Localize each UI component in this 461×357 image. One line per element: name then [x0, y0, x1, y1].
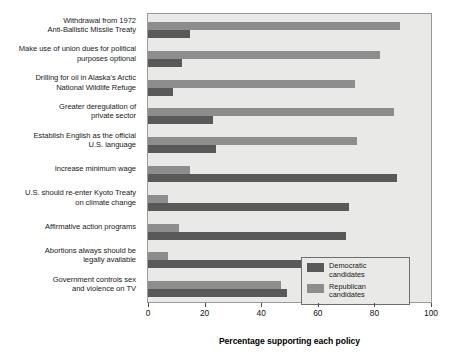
- x-tick-mark: [374, 303, 375, 307]
- bar-group: [148, 72, 431, 101]
- category-label: Abortions always should belegally availa…: [0, 246, 136, 265]
- x-tick-mark: [261, 303, 262, 307]
- x-tick-label: 60: [313, 308, 322, 318]
- category-label: Increase minimum wage: [0, 164, 136, 173]
- category-label: Withdrawal from 1972Anti-Ballistic Missi…: [0, 16, 136, 35]
- bar-democratic: [148, 260, 315, 268]
- x-axis-title: Percentage supporting each policy: [147, 336, 432, 346]
- bar-republican: [148, 22, 400, 30]
- category-label: U.S. should re-enter Kyoto Treatyon clim…: [0, 188, 136, 207]
- bar-group: [148, 216, 431, 245]
- bar-republican: [148, 51, 380, 59]
- bar-republican: [148, 166, 190, 174]
- x-tick-mark: [318, 303, 319, 307]
- bar-democratic: [148, 116, 213, 124]
- x-tick-mark: [205, 303, 206, 307]
- category-label: Government controls sexand violence on T…: [0, 275, 136, 294]
- x-axis: 020406080100: [147, 303, 432, 323]
- bar-group: [148, 129, 431, 158]
- legend-item: Republicancandidates: [307, 283, 404, 301]
- category-label: Make use of union dues for politicalpurp…: [0, 44, 136, 63]
- bar-chart: Withdrawal from 1972Anti-Ballistic Missi…: [0, 0, 461, 357]
- x-tick-label: 40: [257, 308, 266, 318]
- legend-label: Democraticcandidates: [329, 262, 366, 280]
- category-label: Greater deregulation ofprivate sector: [0, 102, 136, 121]
- legend-swatch: [307, 284, 324, 293]
- bar-republican: [148, 195, 168, 203]
- bar-democratic: [148, 30, 190, 38]
- bar-democratic: [148, 88, 173, 96]
- category-axis-labels: Withdrawal from 1972Anti-Ballistic Missi…: [0, 13, 142, 303]
- bar-democratic: [148, 232, 346, 240]
- category-label: Affirmative action programs: [0, 222, 136, 231]
- bar-democratic: [148, 203, 349, 211]
- legend-label: Republicancandidates: [329, 283, 366, 301]
- x-tick-mark: [148, 303, 149, 307]
- x-tick-label: 100: [424, 308, 438, 318]
- x-tick-mark: [431, 303, 432, 307]
- x-tick-label: 20: [200, 308, 209, 318]
- legend-item: Democraticcandidates: [307, 262, 404, 280]
- bar-democratic: [148, 174, 397, 182]
- x-tick-label: 80: [370, 308, 379, 318]
- chart-legend: DemocraticcandidatesRepublicancandidates: [301, 257, 410, 305]
- bar-republican: [148, 137, 357, 145]
- bar-group: [148, 43, 431, 72]
- bar-democratic: [148, 59, 182, 67]
- bar-group: [148, 187, 431, 216]
- bar-republican: [148, 252, 168, 260]
- bar-group: [148, 100, 431, 129]
- bar-republican: [148, 281, 281, 289]
- bar-republican: [148, 80, 355, 88]
- bar-republican: [148, 108, 394, 116]
- x-tick-label: 0: [146, 308, 151, 318]
- category-label: Establish English as the officialU.S. la…: [0, 131, 136, 150]
- bar-democratic: [148, 289, 287, 297]
- bar-democratic: [148, 145, 216, 153]
- bar-group: [148, 14, 431, 43]
- legend-swatch: [307, 263, 324, 272]
- bar-republican: [148, 224, 179, 232]
- bar-group: [148, 158, 431, 187]
- category-label: Drilling for oil in Alaska's ArcticNatio…: [0, 73, 136, 92]
